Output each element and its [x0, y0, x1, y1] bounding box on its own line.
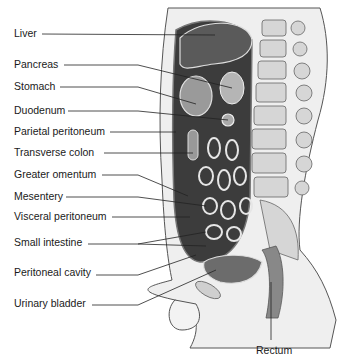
- transverse-colon: [188, 130, 198, 160]
- label-duodenum: Duodenum: [14, 104, 65, 116]
- label-small-intestine: Small intestine: [14, 236, 82, 248]
- label-visceral-peritoneum: Visceral peritoneum: [14, 210, 107, 222]
- label-mesentery: Mesentery: [14, 190, 63, 202]
- label-pancreas: Pancreas: [14, 58, 58, 70]
- label-peritoneal-cavity: Peritoneal cavity: [14, 266, 91, 278]
- label-greater-omentum: Greater omentum: [14, 168, 96, 180]
- label-rectum: Rectum: [256, 344, 292, 356]
- label-stomach: Stomach: [14, 80, 55, 92]
- external-genitalia: [169, 300, 199, 330]
- label-urinary-bladder: Urinary bladder: [14, 297, 86, 309]
- label-liver: Liver: [14, 27, 37, 39]
- anatomy-diagram: Liver Pancreas Stomach Duodenum Parietal…: [0, 0, 340, 360]
- label-parietal-peritoneum: Parietal peritoneum: [14, 125, 105, 137]
- label-transverse-colon: Transverse colon: [14, 146, 94, 158]
